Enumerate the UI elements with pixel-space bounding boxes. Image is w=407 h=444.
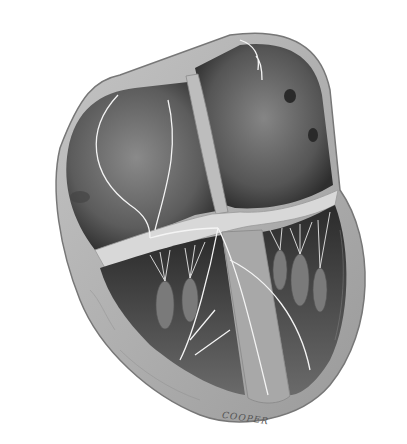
sinus-node-shadow (70, 191, 90, 203)
pulmonary-vein-opening (308, 128, 318, 142)
pulmonary-vein-opening (284, 89, 296, 103)
heart-illustration (0, 0, 407, 444)
